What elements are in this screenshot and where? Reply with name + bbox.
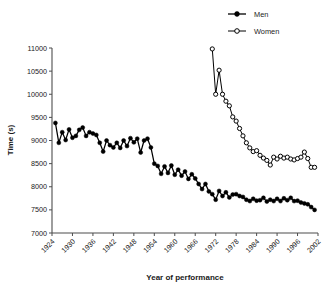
data-point-men (128, 136, 132, 140)
data-point-men (139, 151, 143, 155)
data-point-men (53, 121, 57, 125)
data-point-men (64, 138, 68, 142)
line-chart: 700075008000850090009500100001050011000 … (0, 0, 329, 294)
y-tick-label: 10500 (27, 67, 47, 76)
data-point-women (248, 146, 252, 150)
y-tick-label: 10000 (27, 90, 47, 99)
data-point-men (197, 182, 201, 186)
legend-label-men: Men (254, 10, 268, 19)
data-point-men (57, 141, 61, 145)
data-point-men (60, 130, 64, 134)
data-point-men (203, 182, 207, 186)
data-point-men (84, 134, 88, 138)
data-point-men (173, 173, 177, 177)
data-point-men (241, 195, 245, 199)
data-point-men (289, 196, 293, 200)
data-point-men (98, 141, 102, 145)
legend-marker-women (235, 29, 240, 34)
data-point-women (237, 126, 241, 130)
data-point-women (306, 156, 310, 160)
data-point-men (156, 164, 160, 168)
y-tick-label: 7500 (31, 205, 47, 214)
data-point-women (265, 158, 269, 162)
data-point-men (105, 139, 109, 143)
data-point-men (67, 127, 71, 131)
data-point-men (132, 140, 136, 144)
data-point-women (255, 149, 259, 153)
data-point-women (241, 134, 245, 138)
data-point-men (180, 174, 184, 178)
data-point-men (261, 196, 265, 200)
data-point-women (214, 92, 218, 96)
data-point-men (166, 171, 170, 175)
legend-label-women: Women (254, 27, 279, 36)
data-point-men (309, 205, 313, 209)
data-point-women (234, 119, 238, 123)
data-point-men (186, 177, 190, 181)
data-point-men (149, 145, 153, 149)
data-point-women (224, 99, 228, 103)
data-point-men (135, 137, 139, 141)
data-point-women (268, 163, 272, 167)
data-point-men (118, 146, 122, 150)
data-point-women (231, 115, 235, 119)
data-point-men (122, 139, 126, 143)
data-point-women (299, 155, 303, 159)
y-tick-label: 9500 (31, 113, 47, 122)
y-tick-label: 8000 (31, 182, 47, 191)
data-point-men (159, 172, 163, 176)
y-tick-label: 8500 (31, 159, 47, 168)
data-point-women (312, 165, 316, 169)
y-tick-label: 11000 (28, 44, 47, 53)
data-point-men (200, 187, 204, 191)
data-point-men (210, 192, 214, 196)
data-point-men (313, 208, 317, 212)
data-point-men (94, 133, 98, 137)
data-point-women (227, 104, 231, 108)
data-point-men (227, 195, 231, 199)
data-point-men (207, 189, 211, 193)
data-point-men (217, 189, 221, 193)
data-point-men (111, 145, 115, 149)
data-point-men (125, 144, 129, 148)
data-point-men (193, 176, 197, 180)
data-point-women (220, 92, 224, 96)
chart-container: 700075008000850090009500100001050011000 … (0, 0, 329, 294)
y-axis-title: Time (s) (6, 124, 15, 155)
data-point-men (306, 202, 310, 206)
data-point-men (176, 168, 180, 172)
data-point-men (81, 126, 85, 130)
data-point-women (210, 47, 214, 51)
data-point-men (163, 164, 167, 168)
x-axis-title: Year of performance (146, 273, 224, 282)
y-tick-label: 9000 (31, 136, 47, 145)
data-point-men (169, 163, 173, 167)
data-point-men (214, 198, 218, 202)
data-point-women (244, 141, 248, 145)
data-point-men (183, 169, 187, 173)
data-point-men (74, 134, 78, 138)
data-point-men (221, 194, 225, 198)
y-tick-label: 7000 (31, 229, 47, 238)
data-point-women (302, 150, 306, 154)
data-point-men (101, 150, 105, 154)
data-point-men (224, 190, 228, 194)
data-point-men (145, 137, 149, 141)
data-point-men (278, 199, 282, 203)
legend-marker-men (235, 12, 240, 17)
data-point-women (217, 68, 221, 72)
data-point-men (190, 172, 194, 176)
data-point-men (115, 141, 119, 145)
